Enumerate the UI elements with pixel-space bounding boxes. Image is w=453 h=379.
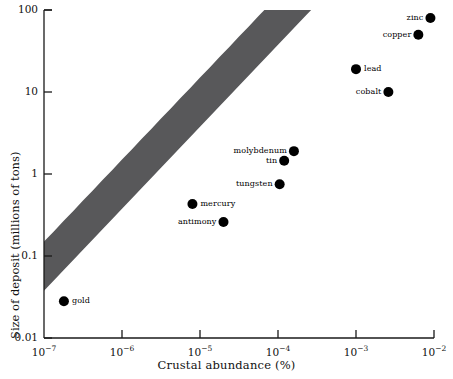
data-point-molybdenum — [289, 146, 299, 156]
point-label-molybdenum: molybdenum — [187, 146, 287, 155]
x-axis-title: Crustal abundance (%) — [0, 358, 453, 372]
point-label-tin: tin — [177, 156, 277, 165]
figure-scatter-plot: 1001010.10.01 10−710−610−510−410−310−2 g… — [0, 0, 453, 379]
data-point-copper — [413, 30, 423, 40]
data-point-antimony — [218, 217, 228, 227]
point-label-cobalt: cobalt — [281, 87, 381, 96]
data-point-tungsten — [275, 179, 285, 189]
x-tick-label: 10−4 — [256, 344, 300, 358]
data-point-zinc — [425, 13, 435, 23]
data-point-cobalt — [383, 87, 393, 97]
y-axis-title: Size of deposit (millions of tons) — [8, 152, 22, 339]
point-label-gold: gold — [72, 296, 90, 305]
x-tick-label: 10−3 — [334, 344, 378, 358]
x-tick-label: 10−7 — [22, 344, 66, 358]
y-tick-label: 100 — [4, 3, 38, 15]
x-tick-label: 10−5 — [178, 344, 222, 358]
data-point-mercury — [187, 199, 197, 209]
point-label-zinc: zinc — [323, 13, 423, 22]
plot-canvas — [0, 0, 453, 379]
point-label-lead: lead — [364, 64, 382, 73]
x-tick-label: 10−2 — [412, 344, 453, 358]
data-point-gold — [59, 296, 69, 306]
point-label-mercury: mercury — [200, 199, 235, 208]
data-point-lead — [351, 64, 361, 74]
point-label-copper: copper — [311, 30, 411, 39]
data-point-tin — [279, 156, 289, 166]
y-tick-label: 10 — [4, 85, 38, 97]
point-label-tungsten: tungsten — [173, 179, 273, 188]
x-tick-label: 10−6 — [100, 344, 144, 358]
point-label-antimony: antimony — [116, 217, 216, 226]
